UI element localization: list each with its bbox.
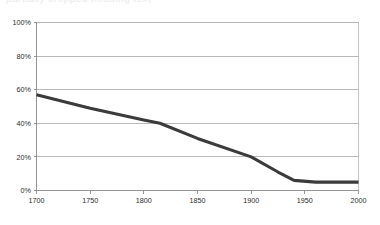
data-series-group	[37, 95, 359, 182]
x-tick-label-1750: 1750	[82, 196, 98, 205]
y-axis-tick-labels: 0%20%40%60%80%100%	[13, 18, 32, 195]
x-tick-label-1800: 1800	[136, 196, 152, 205]
x-axis-ticks	[37, 191, 359, 195]
x-tick-label-1700: 1700	[29, 196, 45, 205]
y-tick-label-100: 100%	[13, 18, 32, 27]
chart-container: partially cropped heading text 0%20%40%6…	[0, 0, 380, 225]
x-axis-tick-labels: 1700175018001850190019502000	[29, 196, 367, 205]
x-tick-label-1900: 1900	[243, 196, 259, 205]
x-tick-label-1950: 1950	[297, 196, 313, 205]
x-tick-label-2000: 2000	[351, 196, 367, 205]
y-tick-label-60: 60%	[17, 85, 32, 94]
line-chart: 0%20%40%60%80%100% 170017501800185019001…	[0, 0, 380, 225]
data-line-series-1	[37, 95, 359, 182]
y-tick-label-80: 80%	[17, 52, 32, 61]
y-tick-label-20: 20%	[17, 153, 32, 162]
y-tick-label-40: 40%	[17, 119, 32, 128]
y-tick-label-0: 0%	[21, 186, 32, 195]
gridlines-group	[37, 23, 359, 157]
x-tick-label-1850: 1850	[190, 196, 206, 205]
